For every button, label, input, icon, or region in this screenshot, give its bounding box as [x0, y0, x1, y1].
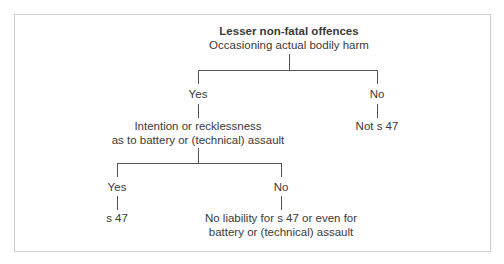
level1-no-outcome: Not s 47 — [356, 119, 399, 133]
level1-no-stem — [377, 104, 378, 118]
level2-branch-line — [117, 163, 282, 164]
level2-yes-outcome: s 47 — [106, 211, 128, 225]
diagram-title: Lesser non-fatal offences — [219, 24, 358, 38]
level2-yes-label: Yes — [108, 180, 127, 194]
level1-yes-line — [198, 70, 199, 84]
level1-yes-label: Yes — [189, 87, 208, 101]
level1-branch-line — [198, 70, 378, 71]
level2-no-outcome-line2: battery or (technical) assault — [209, 225, 353, 239]
level2-no-outcome-line1: No liability for s 47 or even for — [205, 211, 357, 225]
level2-no-line — [281, 163, 282, 177]
level2-no-stem — [281, 196, 282, 210]
level1-no-label: No — [370, 87, 385, 101]
level1-yes-outcome-line1: Intention or recklessness — [134, 119, 261, 133]
root-question: Occasioning actual bodily harm — [209, 38, 369, 52]
level2-yes-line — [117, 163, 118, 177]
level2-no-label: No — [274, 180, 289, 194]
root-stem-line — [289, 54, 290, 70]
level2-yes-stem — [117, 196, 118, 210]
level1-yes-stem — [198, 104, 199, 118]
level1-yes-outcome-line2: as to battery or (technical) assault — [112, 133, 285, 147]
level1-no-line — [377, 70, 378, 84]
level2-stem-line — [198, 148, 199, 163]
